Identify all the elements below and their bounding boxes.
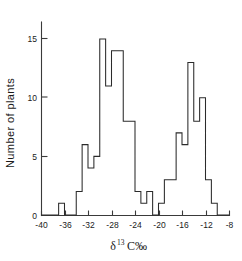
- y-tick-label-10: 10: [28, 93, 38, 103]
- x-tick-label--28: -28: [106, 220, 119, 230]
- x-tick-label--8: -8: [226, 220, 234, 230]
- y-tick-label-5: 5: [32, 152, 37, 162]
- histogram-figure: Number of plants 15 10 5 0 -40-36-32-28-…: [0, 0, 242, 261]
- x-tick-label--16: -16: [176, 220, 189, 230]
- y-axis-label: Number of plants: [4, 78, 16, 168]
- x-tick-label--36: -36: [59, 220, 72, 230]
- x-axis-label: δ 13 C‰: [110, 238, 147, 253]
- x-tick-label--12: -12: [200, 220, 213, 230]
- x-tick-label--40: -40: [35, 220, 48, 230]
- x-tick-labels: -40-36-32-28-24-20-16-12-8: [35, 220, 233, 230]
- x-axis-label-delta: δ: [110, 239, 116, 253]
- x-tick-label--24: -24: [129, 220, 142, 230]
- x-axis-label-superscript: 13: [117, 238, 125, 247]
- x-axis-label-tail: C‰: [127, 239, 147, 253]
- y-tick-label-15: 15: [28, 34, 38, 44]
- x-tick-label--32: -32: [82, 220, 95, 230]
- x-tick-label--20: -20: [153, 220, 166, 230]
